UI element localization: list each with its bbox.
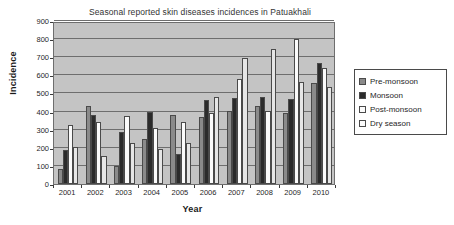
bar bbox=[158, 149, 163, 184]
bar bbox=[186, 143, 191, 184]
bar-group bbox=[308, 23, 336, 184]
y-tick-label: 700 bbox=[23, 54, 49, 62]
x-tick-mark bbox=[194, 185, 195, 188]
bar-group bbox=[82, 23, 110, 184]
x-tick-mark bbox=[307, 185, 308, 188]
legend-label: Post-monsoon bbox=[370, 105, 422, 114]
gridline bbox=[54, 20, 334, 21]
x-tick-mark bbox=[53, 185, 54, 188]
y-tick-label: 200 bbox=[23, 145, 49, 153]
x-tick-label: 2003 bbox=[109, 188, 139, 197]
bar-group bbox=[251, 23, 279, 184]
y-tick-label: 800 bbox=[23, 36, 49, 44]
y-tick-label: 300 bbox=[23, 127, 49, 135]
y-tick-label: 600 bbox=[23, 72, 49, 80]
y-tick-label: 900 bbox=[23, 18, 49, 26]
bar bbox=[327, 87, 332, 184]
legend: Pre-monsoonMonsoonPost-monsoonDry season bbox=[354, 69, 447, 135]
chart-title: Seasonal reported skin diseases incidenc… bbox=[50, 7, 350, 17]
bar-group bbox=[54, 23, 82, 184]
x-tick-mark bbox=[81, 185, 82, 188]
y-tick-label: 500 bbox=[23, 90, 49, 98]
bar-group bbox=[195, 23, 223, 184]
bar-group bbox=[110, 23, 138, 184]
bar-group bbox=[167, 23, 195, 184]
legend-item-dry-season[interactable]: Dry season bbox=[359, 116, 443, 130]
x-tick-label: 2006 bbox=[193, 188, 223, 197]
legend-item-pre-monsoon[interactable]: Pre-monsoon bbox=[359, 74, 443, 88]
bar-group bbox=[223, 23, 251, 184]
y-tick-label: 100 bbox=[23, 163, 49, 171]
x-tick-mark bbox=[250, 185, 251, 188]
legend-label: Pre-monsoon bbox=[370, 77, 418, 86]
y-tick-label: 400 bbox=[23, 109, 49, 117]
x-tick-mark bbox=[138, 185, 139, 188]
x-tick-mark bbox=[109, 185, 110, 188]
x-tick-label: 2009 bbox=[278, 188, 308, 197]
legend-swatch-icon bbox=[359, 106, 366, 113]
x-tick-mark bbox=[279, 185, 280, 188]
x-tick-label: 2007 bbox=[221, 188, 251, 197]
legend-item-monsoon[interactable]: Monsoon bbox=[359, 88, 443, 102]
legend-label: Dry season bbox=[370, 119, 410, 128]
legend-item-post-monsoon[interactable]: Post-monsoon bbox=[359, 102, 443, 116]
x-tick-label: 2002 bbox=[80, 188, 110, 197]
y-axis-title: Incidence bbox=[8, 38, 18, 108]
x-tick-label: 2010 bbox=[306, 188, 336, 197]
bar-group bbox=[139, 23, 167, 184]
x-tick-mark bbox=[335, 185, 336, 188]
x-tick-label: 2001 bbox=[52, 188, 82, 197]
bar bbox=[73, 147, 78, 184]
bar bbox=[271, 49, 276, 184]
bar bbox=[101, 156, 106, 184]
legend-swatch-icon bbox=[359, 120, 366, 127]
x-tick-label: 2004 bbox=[137, 188, 167, 197]
legend-swatch-icon bbox=[359, 78, 366, 85]
x-tick-mark bbox=[166, 185, 167, 188]
x-tick-mark bbox=[222, 185, 223, 188]
bar-group bbox=[280, 23, 308, 184]
bar bbox=[299, 82, 304, 184]
x-tick-label: 2005 bbox=[165, 188, 195, 197]
y-tick-label: 0 bbox=[23, 181, 49, 189]
legend-label: Monsoon bbox=[370, 91, 403, 100]
legend-swatch-icon bbox=[359, 92, 366, 99]
bar bbox=[130, 143, 135, 184]
bar bbox=[214, 97, 219, 184]
bar-chart: Seasonal reported skin diseases incidenc… bbox=[0, 0, 454, 225]
bar bbox=[242, 58, 247, 184]
x-axis-title: Year bbox=[50, 204, 335, 214]
plot-area bbox=[53, 22, 335, 185]
x-tick-label: 2008 bbox=[250, 188, 280, 197]
